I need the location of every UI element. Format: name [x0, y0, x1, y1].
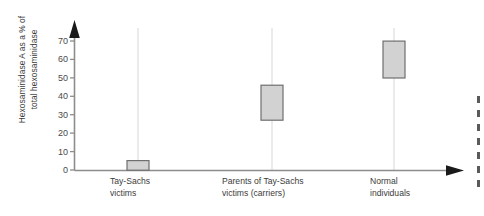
y-tick-label-50: 50	[38, 72, 68, 84]
y-tick-label-70: 70	[38, 35, 68, 47]
chart-container: Hexosaminidase A as a % of total hexosam…	[0, 0, 484, 216]
x-label-1-line-1: Parents of Tay-Sachs	[222, 176, 304, 188]
x-label-0-line-2: victims	[110, 188, 150, 200]
bar-tay-sachs-victims	[127, 161, 149, 171]
bar-parents-carriers	[261, 85, 283, 120]
x-label-2-line-1: Normal	[370, 176, 410, 188]
y-tick-label-40: 40	[38, 90, 68, 102]
x-axis-label-parents-carriers: Parents of Tay-Sachs victims (carriers)	[222, 176, 304, 199]
x-label-1-line-2: victims (carriers)	[222, 188, 304, 200]
x-axis-label-tay-sachs-victims: Tay-Sachs victims	[110, 176, 150, 199]
x-label-2-line-2: individuals	[370, 188, 410, 200]
y-tick-label-20: 20	[38, 127, 68, 139]
y-axis-arrow-icon	[69, 20, 80, 38]
page-edge-artifact	[477, 96, 480, 200]
y-tick-label-10: 10	[38, 146, 68, 158]
x-axis-arrow-icon	[446, 165, 464, 175]
y-tick-label-60: 60	[38, 53, 68, 65]
bar-normal-individuals	[383, 41, 405, 78]
x-label-0-line-1: Tay-Sachs	[110, 176, 150, 188]
y-tick-label-0: 0	[38, 164, 68, 176]
x-axis-label-normal-individuals: Normal individuals	[370, 176, 410, 199]
y-tick-label-30: 30	[38, 109, 68, 121]
